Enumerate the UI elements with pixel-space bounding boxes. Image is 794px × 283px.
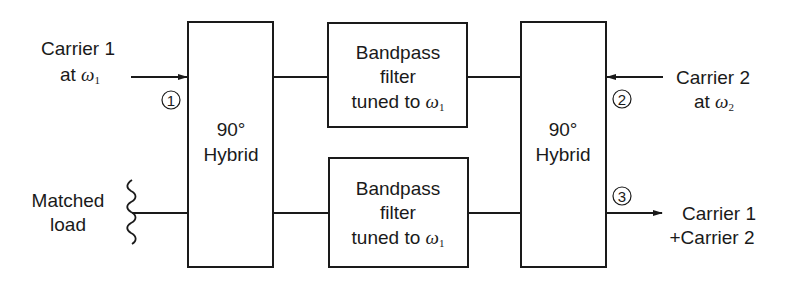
hybrid-left-label-2: Hybrid (204, 144, 259, 165)
carrier1-freq-label: at ω1 (60, 64, 100, 86)
matched-load-label-2: load (50, 214, 86, 235)
resistor-icon (127, 180, 135, 244)
output-label-2: +Carrier 2 (670, 227, 755, 248)
port-1-label: 1 (167, 92, 175, 109)
diplexer-diagram: 90° Hybrid 90° Hybrid Bandpass filter tu… (0, 0, 794, 283)
filter-bottom-label-2: filter (380, 202, 417, 223)
filter-bottom-label-3: tuned to ω1 (352, 227, 445, 249)
filter-top-block: Bandpass filter tuned to ω1 (328, 23, 467, 127)
hybrid-left-block: 90° Hybrid (188, 22, 273, 267)
port-3-label: 3 (618, 188, 626, 205)
filter-bottom-block: Bandpass filter tuned to ω1 (329, 158, 468, 267)
hybrid-right-label-1: 90° (549, 119, 578, 140)
port-3-marker: 3 (613, 187, 631, 205)
filter-top-label-3: tuned to ω1 (352, 91, 445, 113)
filter-top-label-1: Bandpass (356, 42, 441, 63)
filter-top-label-2: filter (380, 66, 417, 87)
matched-load-label-1: Matched (32, 190, 105, 211)
carrier1-label: Carrier 1 (41, 38, 115, 59)
hybrid-right-label-2: Hybrid (536, 144, 591, 165)
filter-bottom-label-1: Bandpass (356, 178, 441, 199)
carrier2-label: Carrier 2 (676, 67, 750, 88)
port-2-marker: 2 (613, 90, 631, 108)
port-2-label: 2 (618, 91, 626, 108)
port-1-marker: 1 (162, 91, 180, 109)
hybrid-right-block: 90° Hybrid (521, 22, 606, 267)
output-label-1: Carrier 1 (682, 203, 756, 224)
carrier2-freq-label: at ω2 (694, 91, 734, 113)
hybrid-left-label-1: 90° (217, 119, 246, 140)
